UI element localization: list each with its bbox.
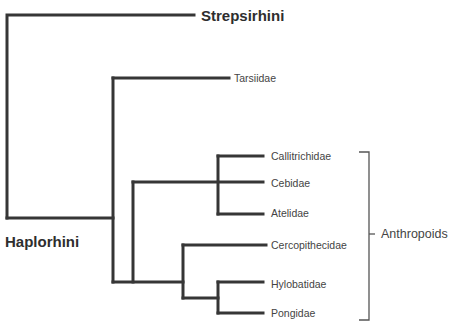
label-tarsiidae: Tarsiidae (234, 73, 276, 84)
label-cercopithecidae: Cercopithecidae (271, 240, 347, 251)
phylogenetic-tree: StrepsirhiniHaplorhiniTarsiidaeCallitric… (0, 0, 452, 326)
tree-branches (0, 0, 452, 326)
root-stem (7, 15, 194, 218)
label-haplorhini: Haplorhini (5, 234, 79, 249)
label-strepsirhini: Strepsirhini (201, 8, 284, 23)
label-pongidae: Pongidae (271, 308, 315, 319)
label-callitrichidae: Callitrichidae (271, 151, 331, 162)
label-atelidae: Atelidae (271, 208, 309, 219)
anthropoids-bracket (359, 152, 369, 320)
label-hylobatidae: Hylobatidae (271, 279, 326, 290)
label-anthropoids: Anthropoids (381, 228, 448, 241)
label-cebidae: Cebidae (271, 178, 310, 189)
